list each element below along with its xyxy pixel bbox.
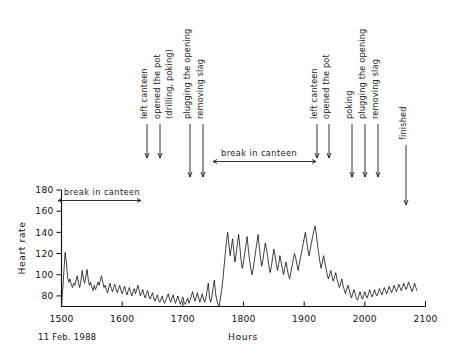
x-tick-label-1600: 1600 bbox=[110, 313, 134, 324]
figure-root: 80100120140160180 1500160017001800190020… bbox=[0, 0, 452, 357]
annotation-opened-the-pot-right: opened the pot bbox=[321, 54, 331, 119]
break-annotation-middle: break in canteen bbox=[213, 148, 316, 164]
annotation-opened-the-pot-left: opened the pot bbox=[152, 54, 162, 119]
y-tick-label-180: 180 bbox=[35, 184, 53, 195]
break-annotation-left: break in canteen bbox=[58, 187, 141, 203]
annotation-drilling-poking-left: (drilling, poking) bbox=[164, 49, 174, 119]
y-tick-label-140: 140 bbox=[35, 227, 53, 238]
plot-area bbox=[62, 226, 418, 306]
y-tick-labels: 80100120140160180 bbox=[35, 184, 53, 301]
x-tick-label-1800: 1800 bbox=[231, 313, 255, 324]
annotation-left-canteen-left: left canteen bbox=[139, 68, 149, 119]
break-left-label: break in canteen bbox=[64, 187, 140, 197]
annotation-plugging-the-opening-left: plugging the opening bbox=[182, 29, 192, 119]
heart-rate-figure: 80100120140160180 1500160017001800190020… bbox=[0, 0, 452, 357]
annotation-poking-right: poking bbox=[344, 90, 354, 119]
date-label: 11 Feb. 1988 bbox=[38, 332, 96, 342]
y-tick-marks bbox=[57, 190, 62, 296]
annotation-finished: finished bbox=[398, 106, 408, 140]
x-tick-label-1500: 1500 bbox=[49, 313, 73, 324]
annotation-group-right: left canteen opened the pot poking plugg… bbox=[309, 29, 408, 205]
annotation-group-left: left canteen opened the pot (drilling, p… bbox=[139, 29, 205, 177]
x-axis-title: Hours bbox=[228, 331, 258, 342]
y-tick-label-120: 120 bbox=[35, 248, 53, 259]
annotation-plugging-the-opening-right: plugging the opening bbox=[357, 29, 367, 119]
x-tick-marks bbox=[122, 302, 365, 307]
break-middle-label: break in canteen bbox=[221, 148, 297, 158]
x-tick-label-1700: 1700 bbox=[171, 313, 195, 324]
y-tick-label-160: 160 bbox=[35, 205, 53, 216]
x-tick-label-1900: 1900 bbox=[292, 313, 316, 324]
y-tick-label-80: 80 bbox=[41, 290, 53, 301]
annotation-removing-slag-right: removing slag bbox=[370, 59, 380, 119]
x-tick-labels: 1500160017001800190020002100 bbox=[49, 313, 437, 324]
y-axis-title: Heart rate bbox=[16, 221, 27, 274]
y-tick-label-100: 100 bbox=[35, 269, 53, 280]
x-tick-label-2100: 2100 bbox=[413, 313, 437, 324]
x-tick-label-2000: 2000 bbox=[353, 313, 377, 324]
heart-rate-trace bbox=[62, 226, 418, 306]
annotation-removing-slag-left: removing slag bbox=[195, 59, 205, 119]
annotation-left-canteen-right: left canteen bbox=[309, 68, 319, 119]
